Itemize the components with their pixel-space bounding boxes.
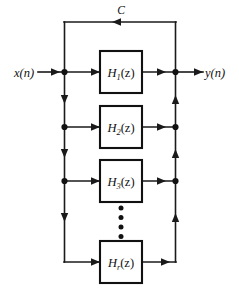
input-arrowhead bbox=[51, 68, 60, 75]
filter-label-h3: H3(z) bbox=[106, 175, 134, 191]
left-rail-arrowhead-3 bbox=[61, 213, 68, 222]
branch-3-output-arrowhead bbox=[157, 177, 166, 184]
block-diagram-figure: C x(n) y(n) H1(z) H2(z) H3(z) Hr(z) bbox=[0, 0, 239, 295]
branch-r-output-arrowhead bbox=[161, 258, 170, 265]
right-rail-arrowhead-3 bbox=[172, 213, 179, 222]
ellipsis-dot-2 bbox=[119, 215, 124, 220]
left-distribution-rail bbox=[61, 72, 68, 262]
svg-text:H2(z): H2(z) bbox=[106, 121, 134, 137]
vertical-ellipsis bbox=[119, 206, 124, 240]
filter-label-h1: H1(z) bbox=[106, 66, 134, 82]
diagram-canvas: C x(n) y(n) H1(z) H2(z) H3(z) Hr(z) bbox=[0, 0, 239, 295]
feedback-label-c: C bbox=[117, 4, 125, 16]
junction-dot-left-3 bbox=[61, 178, 67, 184]
junction-dot-left-1 bbox=[61, 69, 67, 75]
left-rail-arrowhead-1 bbox=[61, 95, 68, 104]
filter-h2-argument: (z) bbox=[121, 121, 135, 135]
junction-dot-right-2 bbox=[172, 124, 178, 130]
right-rail-arrowhead-1 bbox=[172, 95, 179, 104]
output-path bbox=[176, 68, 203, 75]
svg-text:H3(z): H3(z) bbox=[106, 175, 134, 191]
right-rail-arrowhead-2 bbox=[172, 149, 179, 158]
branch-1-output-arrowhead bbox=[157, 68, 166, 75]
input-path bbox=[38, 68, 64, 75]
right-summing-rail bbox=[172, 72, 179, 262]
branch-2-input-arrowhead bbox=[91, 123, 100, 130]
ellipsis-dot-4 bbox=[119, 234, 124, 239]
filter-label-h2: H2(z) bbox=[106, 121, 134, 137]
filter-h1-argument: (z) bbox=[121, 66, 135, 80]
filter-h3-argument: (z) bbox=[121, 175, 135, 189]
branch-3-input-arrowhead bbox=[91, 177, 100, 184]
filter-label-hr: Hr(z) bbox=[107, 256, 134, 272]
junction-dot-right-1 bbox=[172, 69, 178, 75]
output-arrowhead bbox=[194, 68, 203, 75]
output-label: y(n) bbox=[203, 66, 225, 80]
branch-1-input-arrowhead bbox=[91, 68, 100, 75]
input-label: x(n) bbox=[13, 66, 34, 80]
feedback-arrowhead-left bbox=[112, 18, 121, 25]
ellipsis-dot-1 bbox=[119, 206, 124, 211]
junction-dot-left-2 bbox=[61, 124, 67, 130]
svg-text:Hr(z): Hr(z) bbox=[107, 256, 134, 272]
svg-text:H1(z): H1(z) bbox=[106, 66, 134, 82]
branch-2-output-arrowhead bbox=[157, 123, 166, 130]
junction-dot-right-3 bbox=[172, 178, 178, 184]
branch-r-input-arrowhead bbox=[91, 258, 100, 265]
filter-hr-argument: (z) bbox=[120, 256, 134, 270]
left-rail-arrowhead-2 bbox=[61, 149, 68, 158]
ellipsis-dot-3 bbox=[119, 225, 124, 230]
